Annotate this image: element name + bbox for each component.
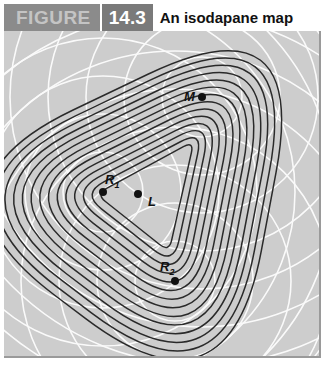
point-r2-marker xyxy=(171,277,179,285)
figure-label: FIGURE xyxy=(4,4,100,31)
isotim-circles xyxy=(4,31,321,358)
isodapane-map: M R1 L R2 xyxy=(4,31,321,358)
point-m-marker xyxy=(198,93,206,101)
figure-number: 14.3 xyxy=(102,4,153,31)
point-m-label: M xyxy=(184,89,195,104)
point-l-marker xyxy=(134,190,142,198)
point-r2-label: R2 xyxy=(160,259,174,277)
figure-header: FIGURE 14.3 An isodapane map xyxy=(4,4,300,31)
map-canvas xyxy=(4,31,321,358)
isodapane-contours xyxy=(4,51,282,358)
figure-title: An isodapane map xyxy=(153,4,300,31)
point-r1-label: R1 xyxy=(105,172,119,190)
point-l-label: L xyxy=(148,194,156,209)
